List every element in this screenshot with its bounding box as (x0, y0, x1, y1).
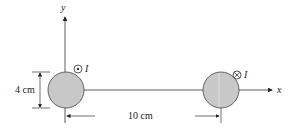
x-axis-label: x (277, 85, 281, 95)
current-out-of-page-icon (74, 65, 82, 73)
y-axis-label: y (61, 3, 65, 13)
current-into-page-icon (233, 71, 241, 79)
diameter-label: 4 cm (15, 85, 35, 95)
left-wire-cross-section (48, 72, 84, 108)
right-current-label: I (244, 70, 247, 80)
left-current-label: I (85, 64, 88, 74)
separation-label: 10 cm (128, 111, 153, 121)
